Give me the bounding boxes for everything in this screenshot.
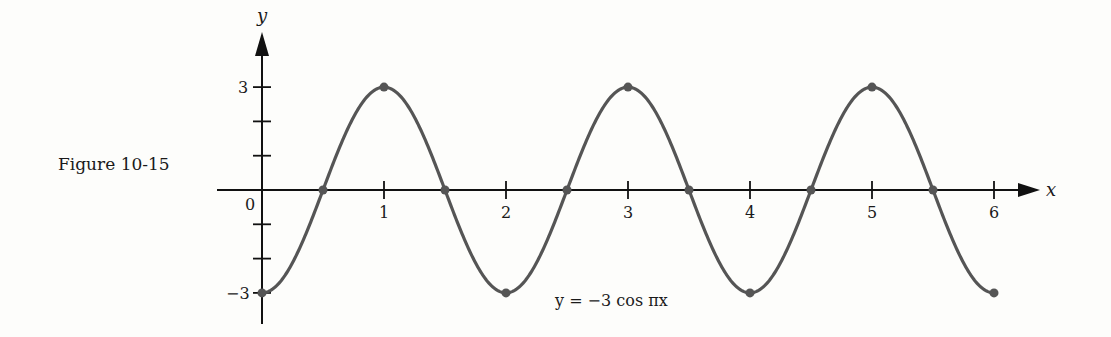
data-point: [563, 186, 572, 195]
x-tick-label: 6: [989, 203, 999, 222]
origin-label: 0: [245, 195, 255, 214]
x-tick-label: 2: [501, 203, 511, 222]
y-tick-label-top: 3: [238, 78, 248, 97]
x-tick-label: 3: [623, 203, 633, 222]
x-tick-label: 5: [867, 203, 877, 222]
equation-label: y = −3 cos πx: [554, 291, 668, 310]
data-point: [319, 186, 328, 195]
data-point: [441, 186, 450, 195]
data-point: [929, 186, 938, 195]
data-point: [380, 83, 389, 92]
data-point: [624, 83, 633, 92]
x-tick-label: 1: [379, 203, 389, 222]
y-axis-arrow-icon: [255, 32, 269, 56]
axis-labels: 123456: [379, 203, 999, 222]
cosine-plot: 123456 y x 0 3 −3 y = −3 cos πx: [0, 0, 1111, 337]
data-point: [685, 186, 694, 195]
axes: [217, 32, 1040, 324]
data-point: [502, 288, 511, 297]
data-point: [990, 288, 999, 297]
data-point: [258, 288, 267, 297]
x-axis-arrow-icon: [1018, 183, 1040, 197]
y-axis-name: y: [256, 5, 268, 26]
y-tick-label-bottom: −3: [226, 284, 250, 303]
data-point: [868, 83, 877, 92]
x-tick-label: 4: [745, 203, 755, 222]
x-axis-name: x: [1046, 179, 1056, 200]
data-point: [746, 288, 755, 297]
data-point: [807, 186, 816, 195]
